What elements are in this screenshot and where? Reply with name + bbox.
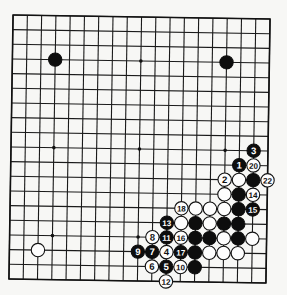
move-number: 7: [149, 246, 154, 257]
white-stone: [217, 232, 231, 246]
black-stone: [189, 216, 203, 230]
black-stone: [203, 231, 217, 245]
white-stone-icon: [203, 202, 217, 216]
black-stone: [246, 173, 260, 187]
black-stone-move-1: 1: [232, 158, 246, 172]
move-number: 1: [236, 159, 242, 170]
move-number: 13: [162, 219, 172, 228]
white-stone-icon: [217, 232, 231, 246]
black-stone: [188, 260, 202, 274]
black-stone-icon: [231, 217, 245, 231]
black-stone-move-11: 11: [160, 231, 174, 245]
white-stone: [174, 216, 188, 230]
black-stone-move-3: 3: [247, 144, 261, 158]
white-stone: [203, 217, 217, 231]
black-stone-icon: [217, 217, 231, 231]
move-number: 16: [176, 234, 186, 243]
move-number: 17: [176, 249, 186, 258]
move-number: 14: [248, 191, 258, 200]
move-number: 10: [176, 263, 186, 272]
black-stone: [220, 56, 234, 70]
black-stone-move-17: 17: [174, 246, 188, 260]
white-stone-icon: [218, 188, 232, 202]
black-stone-icon: [203, 231, 217, 245]
white-stone-move-16: 16: [174, 231, 188, 245]
black-stone-move-9: 9: [131, 245, 145, 259]
white-stone: [218, 188, 232, 202]
black-stone-icon: [188, 260, 202, 274]
white-stone-move-22: 22: [261, 174, 275, 188]
white-stone-icon: [189, 202, 203, 216]
black-stone: [48, 53, 62, 67]
white-stone: [232, 173, 246, 187]
white-stone-move-10: 10: [174, 260, 188, 274]
white-stone-icon: [217, 202, 231, 216]
move-number: 9: [135, 246, 140, 257]
white-stone: [231, 246, 245, 260]
move-number: 6: [149, 261, 154, 272]
white-stone-move-14: 14: [246, 188, 260, 202]
move-number: 18: [177, 205, 187, 214]
black-stone: [231, 217, 245, 231]
white-stone: [202, 246, 216, 260]
star-point: [223, 149, 227, 153]
white-stone: [189, 202, 203, 216]
white-stone-icon: [246, 232, 260, 246]
black-stone-move-5: 5: [159, 260, 173, 274]
move-number: 4: [164, 246, 170, 257]
move-number: 11: [162, 234, 171, 243]
white-stone-move-6: 6: [145, 260, 159, 274]
white-stone-move-20: 20: [247, 159, 261, 173]
black-stone-move-15: 15: [246, 203, 260, 217]
black-stone-icon: [232, 202, 246, 216]
white-stone-icon: [217, 246, 231, 260]
move-number: 15: [248, 206, 258, 215]
black-stone: [231, 232, 245, 246]
black-stone-icon: [189, 216, 203, 230]
move-number: 22: [263, 177, 273, 186]
move-number: 3: [251, 145, 256, 156]
star-point: [138, 147, 142, 151]
black-stone: [188, 231, 202, 245]
move-number: 12: [161, 278, 171, 287]
black-stone-icon: [232, 188, 246, 202]
move-number: 20: [249, 162, 259, 171]
star-point: [139, 59, 143, 63]
white-stone-move-4: 4: [160, 245, 174, 259]
black-stone: [188, 246, 202, 260]
black-stone-icon: [220, 56, 234, 70]
white-stone: [217, 202, 231, 216]
white-stone-icon: [232, 173, 246, 187]
go-board: 3120222141815138111697417651012: [0, 0, 287, 295]
black-stone-icon: [246, 173, 260, 187]
white-stone-icon: [174, 216, 188, 230]
white-stone-icon: [231, 246, 245, 260]
white-stone-move-12: 12: [159, 275, 173, 289]
black-stone: [232, 188, 246, 202]
white-stone-icon: [31, 243, 45, 257]
black-stone-move-7: 7: [145, 245, 159, 259]
white-stone: [203, 202, 217, 216]
black-stone-icon: [188, 246, 202, 260]
white-stone-move-8: 8: [146, 230, 160, 244]
star-points: [51, 58, 229, 240]
move-number: 2: [222, 174, 227, 185]
move-number: 5: [163, 261, 169, 272]
star-point: [52, 146, 56, 150]
star-point: [136, 235, 140, 239]
white-stone: [246, 232, 260, 246]
white-stone: [31, 243, 45, 257]
black-stone: [232, 202, 246, 216]
white-stone-move-18: 18: [175, 202, 189, 216]
move-number: 8: [150, 231, 155, 242]
black-stone-move-13: 13: [160, 216, 174, 230]
go-board-diagram: 3120222141815138111697417651012: [0, 0, 287, 295]
black-stone-icon: [48, 53, 62, 67]
white-stone-icon: [202, 246, 216, 260]
black-stone: [217, 217, 231, 231]
star-point: [51, 234, 55, 238]
white-stone-move-2: 2: [218, 173, 232, 187]
black-stone-icon: [188, 231, 202, 245]
white-stone-icon: [203, 217, 217, 231]
black-stone-icon: [231, 232, 245, 246]
